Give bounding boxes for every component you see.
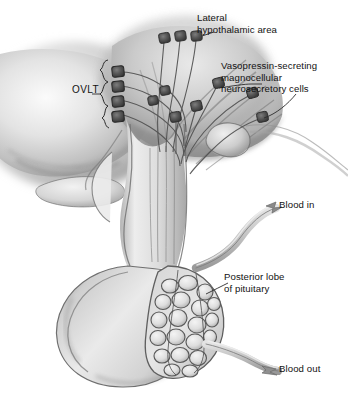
label-magnocellular-cells: Vasopressin-secretingmagnocellularneuros… xyxy=(221,60,317,95)
posterior-lobe-of-pituitary xyxy=(145,266,223,378)
label-line: hypothalamic area xyxy=(197,24,277,35)
label-line: Lateral xyxy=(197,12,227,23)
inflow-artery xyxy=(196,202,282,268)
label-line: Vasopressin-secreting xyxy=(221,60,317,71)
label-lateral-hypothalamic-area: Lateralhypothalamic area xyxy=(197,12,277,35)
anatomical-figure: Lateralhypothalamic area Vasopressin-sec… xyxy=(0,0,348,399)
outflow-vein xyxy=(206,341,278,375)
mammillary-body xyxy=(206,123,348,176)
label-line: of pituitary xyxy=(224,283,269,294)
label-blood-out: Blood out xyxy=(279,363,320,375)
label-line: magnocellular xyxy=(221,72,282,83)
label-ovlt: OVLT xyxy=(72,84,99,96)
label-blood-in: Blood in xyxy=(279,199,314,211)
label-posterior-lobe: Posterior lobeof pituitary xyxy=(224,271,285,294)
label-line: neurosecretory cells xyxy=(221,83,309,94)
label-line: Posterior lobe xyxy=(224,271,285,282)
